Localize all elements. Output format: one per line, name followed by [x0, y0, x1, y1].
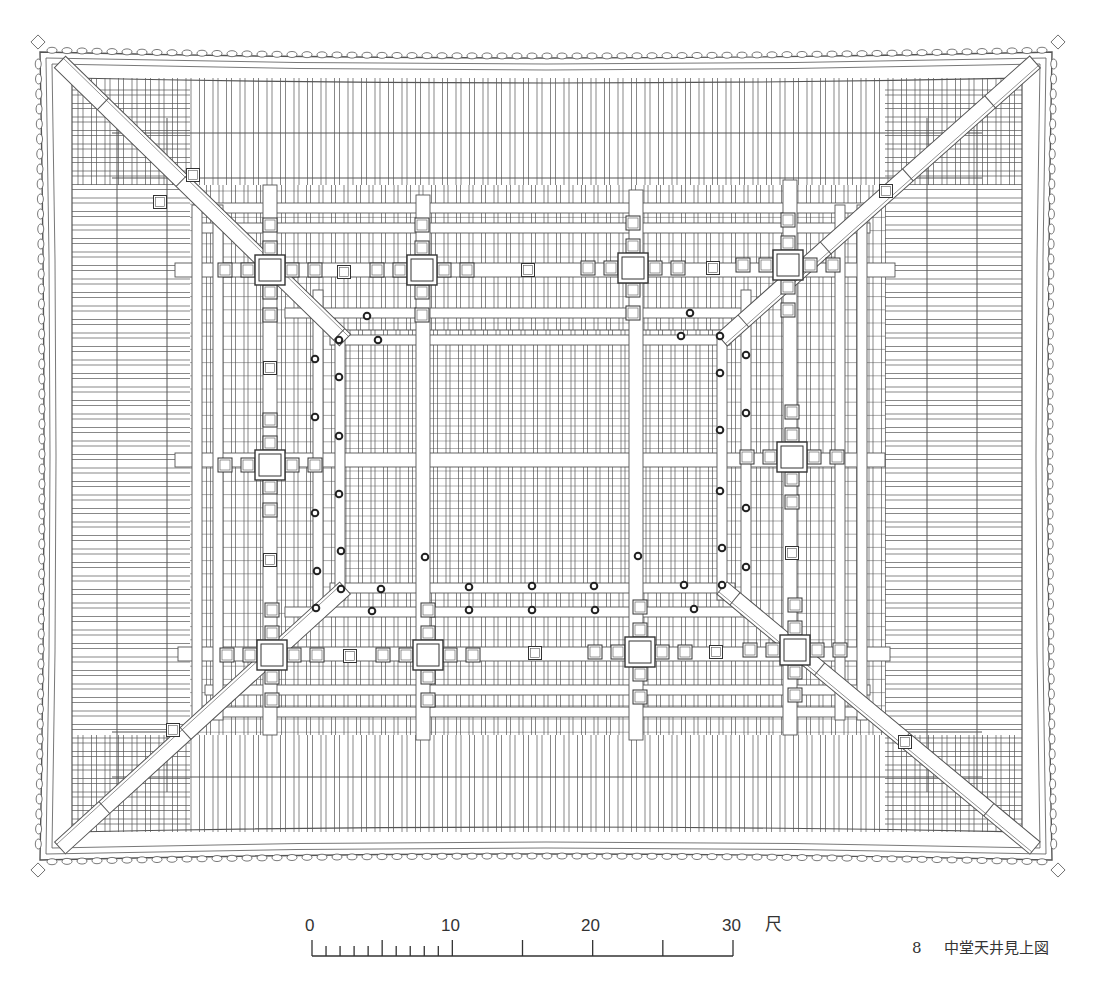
figure-number: 8: [912, 939, 922, 957]
scale-label-30: 30: [722, 917, 741, 934]
figure-title: 中堂天井見上図: [944, 939, 1049, 957]
scale-label-0: 0: [305, 917, 314, 934]
ceiling-plan-drawing: [0, 0, 1095, 900]
scale-bar-ticks: [312, 940, 733, 956]
scale-label-10: 10: [441, 917, 460, 934]
scale-label-20: 20: [581, 917, 600, 934]
scale-unit-label: 尺: [765, 916, 782, 933]
figure-caption: 8 中堂天井見上図: [912, 936, 1049, 957]
